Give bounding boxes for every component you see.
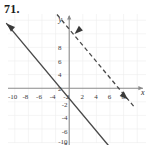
dashed-line-arrow-upper-left bbox=[75, 26, 83, 34]
y-tick-label: 6 bbox=[58, 58, 62, 66]
x-axis-label: x bbox=[140, 88, 145, 97]
coordinate-plane: -10 -8 -6 -4 -2 2 4 6 8 8 6 4 2 -2 -4 -6… bbox=[0, 0, 153, 145]
y-tick-label: -4 bbox=[62, 114, 68, 122]
y-tick-label: 4 bbox=[58, 71, 62, 79]
x-tick-label: 2 bbox=[81, 93, 85, 101]
y-tick-label-neg10: -10 bbox=[58, 138, 68, 145]
x-tick-label: 6 bbox=[108, 93, 112, 101]
x-tick-label: -6 bbox=[36, 93, 42, 101]
x-tick-label: -2 bbox=[63, 93, 69, 101]
y-axis-arrowhead bbox=[67, 15, 71, 20]
y-tick-label: -2 bbox=[62, 101, 68, 109]
solid-line-arrow-upper-left bbox=[7, 24, 15, 32]
x-tick-label: -8 bbox=[23, 93, 29, 101]
y-tick-label: 8 bbox=[58, 44, 62, 52]
graph-figure: 71. bbox=[0, 0, 153, 145]
grid-lines bbox=[8, 14, 146, 143]
y-tick-label: -6 bbox=[62, 128, 68, 136]
x-tick-label: -10 bbox=[8, 93, 18, 101]
x-tick-label: 4 bbox=[94, 93, 98, 101]
x-tick-label: -4 bbox=[50, 93, 56, 101]
